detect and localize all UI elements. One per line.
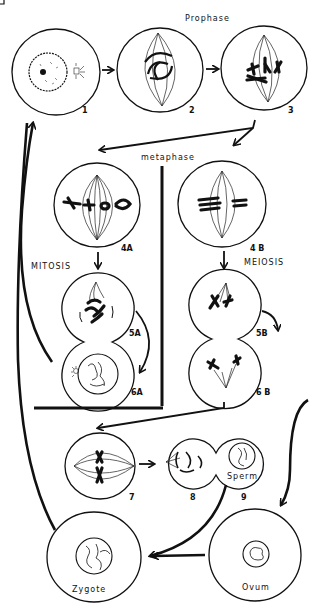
stage-number-2: 2: [189, 106, 195, 115]
label-metaphase: metaphase: [141, 153, 195, 162]
stage-number-5b: 5B: [256, 329, 268, 338]
centriole-icon: [74, 63, 85, 79]
label-mitosis: MITOSIS: [31, 262, 71, 271]
stage-number-1: 1: [82, 106, 88, 115]
corner-mark: [0, 0, 4, 4]
stage-number-4b: 4 B: [250, 244, 264, 253]
arrow-sperm-to-zygote: [150, 485, 226, 556]
label-prophase: Prophase: [185, 14, 230, 23]
stage-number-6b: 6 B: [256, 388, 270, 397]
stage-number-9: 9: [241, 493, 247, 502]
stage-number-4a: 4A: [121, 244, 133, 253]
arrow-3-to-4a: [100, 120, 255, 150]
centriole-icon: [71, 366, 79, 377]
cell-5b-6b-meiotic-telophase: [189, 269, 261, 408]
arrow-to-ovum: [281, 400, 308, 505]
cell-5a-6a-telophase: [62, 273, 134, 411]
arrow-5a-to-6a: [136, 311, 149, 372]
cell-1-interphase: [12, 29, 100, 115]
cell-3-late-prophase: [221, 26, 307, 110]
label-zygote: Zygote: [72, 585, 106, 594]
stage-number-6a: 6A: [131, 388, 143, 397]
cell-8-9: [166, 439, 263, 489]
label-ovum: Ovum: [242, 583, 270, 592]
stage-number-3: 3: [288, 106, 294, 115]
stage-number-8: 8: [190, 493, 196, 502]
cell-7: [65, 433, 135, 499]
label-meiosis: MEIOSIS: [244, 258, 284, 267]
cell-4a-mitotic-metaphase: [54, 163, 140, 247]
cell-2-prophase: [117, 28, 203, 112]
cell-4b-meiotic-metaphase: [178, 161, 266, 247]
arrow-zygote-to-1: [18, 123, 55, 530]
arrow-ovum-to-zygote: [153, 555, 205, 556]
cell-cycle-diagram: [0, 0, 320, 610]
label-sperm: Sperm: [227, 472, 258, 481]
stage-number-7: 7: [129, 493, 135, 502]
stage-number-5a: 5A: [129, 329, 141, 338]
arrow-5b-curve: [262, 311, 278, 330]
